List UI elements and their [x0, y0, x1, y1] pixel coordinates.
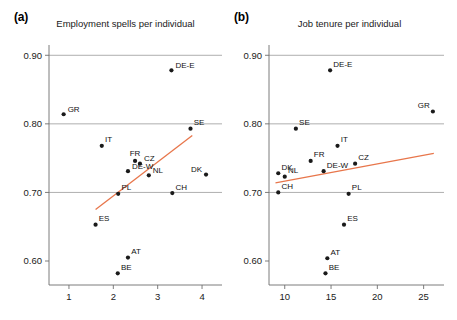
data-point-label: FR: [314, 150, 325, 159]
data-point[interactable]: [170, 191, 174, 195]
data-point-label: PL: [352, 183, 362, 192]
data-point-label: SE: [299, 118, 310, 127]
x-tick-label: 10: [279, 291, 290, 302]
x-tick-label: 3: [155, 291, 160, 302]
x-tick-label: 15: [326, 291, 337, 302]
data-point[interactable]: [62, 112, 66, 116]
data-point[interactable]: [328, 68, 332, 72]
y-tick-label: 0.70: [24, 187, 43, 198]
x-tick-label: 25: [418, 291, 429, 302]
figure-container: (a) Employment spells per individual 0.6…: [0, 0, 457, 320]
x-tick-label: 1: [66, 291, 71, 302]
y-tick-label: 0.90: [244, 50, 263, 61]
data-point[interactable]: [294, 127, 298, 131]
x-tick-label: 20: [372, 291, 383, 302]
data-point-label: DE-W: [327, 161, 349, 170]
x-tick-label: 2: [111, 291, 116, 302]
data-point-label: ES: [347, 214, 358, 223]
data-point-label: CH: [281, 182, 293, 191]
data-point[interactable]: [126, 255, 130, 259]
data-point[interactable]: [335, 144, 339, 148]
y-tick-label: 0.90: [24, 50, 43, 61]
data-point[interactable]: [325, 256, 329, 260]
data-point[interactable]: [431, 109, 435, 113]
data-point-label: NL: [153, 166, 164, 175]
data-point[interactable]: [169, 68, 173, 72]
data-point[interactable]: [322, 169, 326, 173]
trend-line: [96, 136, 193, 210]
data-point[interactable]: [188, 127, 192, 131]
data-point-label: CZ: [358, 153, 369, 162]
data-point[interactable]: [342, 223, 346, 227]
data-point-label: IT: [341, 135, 348, 144]
data-point[interactable]: [353, 162, 357, 166]
data-point-label: AT: [131, 247, 141, 256]
data-point[interactable]: [126, 169, 130, 173]
data-point-label: PL: [121, 183, 131, 192]
trend-line: [275, 153, 433, 182]
y-tick-label: 0.60: [244, 255, 263, 266]
data-point[interactable]: [347, 192, 351, 196]
data-point[interactable]: [93, 223, 97, 227]
x-tick-label: 4: [199, 291, 204, 302]
data-point[interactable]: [116, 271, 120, 275]
data-point[interactable]: [276, 171, 280, 175]
data-point[interactable]: [276, 190, 280, 194]
data-point[interactable]: [100, 144, 104, 148]
y-tick-label: 0.70: [244, 187, 263, 198]
data-point-label: IT: [105, 135, 112, 144]
data-point-label: DE-W: [132, 162, 154, 171]
data-point-label: FR: [130, 149, 141, 158]
panel-b: (b) Job tenure per individual 0.600.700.…: [228, 0, 456, 320]
data-point-label: CH: [176, 183, 188, 192]
data-point[interactable]: [323, 271, 327, 275]
data-point[interactable]: [283, 175, 287, 179]
panel-a: (a) Employment spells per individual 0.6…: [0, 0, 228, 320]
data-point-label: ES: [99, 214, 110, 223]
data-point-label: DE-E: [175, 61, 194, 70]
y-tick-label: 0.80: [244, 118, 263, 129]
data-point-label: GR: [68, 105, 80, 114]
data-point-label: AT: [331, 248, 341, 257]
panel-a-plot: 0.600.700.800.901234DE-EGRSEITFRCZDE-WNL…: [0, 0, 228, 320]
data-point-label: DK: [281, 163, 293, 172]
data-point-label: DK: [191, 165, 203, 174]
data-point[interactable]: [204, 173, 208, 177]
data-point[interactable]: [147, 173, 151, 177]
data-point[interactable]: [116, 192, 120, 196]
data-point-label: SE: [194, 118, 205, 127]
panel-b-plot: 0.600.700.800.9010152025DE-EGRSEITFRCZDE…: [228, 0, 456, 320]
y-tick-label: 0.80: [24, 118, 43, 129]
data-point-label: BE: [329, 263, 340, 272]
data-point[interactable]: [309, 159, 313, 163]
data-point-label: GR: [418, 101, 430, 110]
data-point-label: DE-E: [333, 60, 352, 69]
y-tick-label: 0.60: [24, 255, 43, 266]
data-point-label: BE: [121, 263, 132, 272]
